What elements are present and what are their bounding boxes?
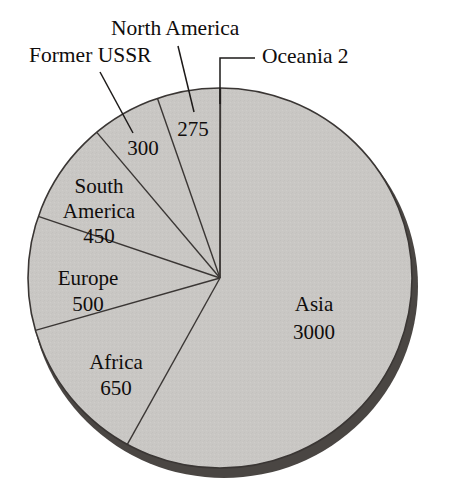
slice-label-europe-name: Europe xyxy=(58,266,119,290)
slice-label-africa-value: 650 xyxy=(100,376,132,400)
callout-label-north-america: North America xyxy=(111,16,240,40)
callout-label-oceania: Oceania 2 xyxy=(262,44,349,68)
callout-label-former-ussr: Former USSR xyxy=(29,43,152,67)
pie-chart-canvas: Asia 3000 Africa 650 Europe 500 South Am… xyxy=(0,0,452,500)
slice-label-south-america-name-line2: America xyxy=(63,199,136,223)
slice-label-europe-value: 500 xyxy=(72,292,104,316)
slice-label-south-america-value: 450 xyxy=(83,224,115,248)
slice-label-former-ussr-value: 300 xyxy=(127,136,159,160)
slice-label-africa-name: Africa xyxy=(89,350,143,374)
slice-label-asia-name: Asia xyxy=(295,292,334,316)
slice-label-south-america-name-line1: South xyxy=(74,174,124,198)
pie-chart: Asia 3000 Africa 650 Europe 500 South Am… xyxy=(0,0,452,500)
slice-label-north-america-value: 275 xyxy=(177,117,209,141)
wedge-separator-asia-start xyxy=(220,88,221,278)
slice-label-asia-value: 3000 xyxy=(293,320,335,344)
